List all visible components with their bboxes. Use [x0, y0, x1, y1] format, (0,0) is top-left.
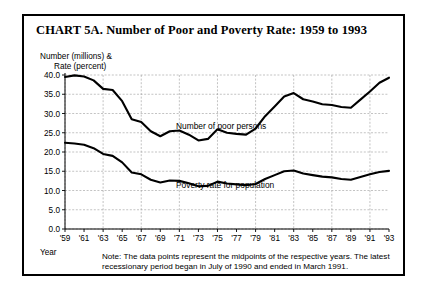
x-tick-label: '83	[288, 234, 299, 243]
x-tick-label: '65	[117, 234, 128, 243]
axis-lines	[65, 73, 389, 229]
x-tick-label: '79	[250, 234, 261, 243]
x-tick-label: '75	[212, 234, 223, 243]
y-tick-label: 10.0	[44, 187, 60, 196]
x-tick-label: '69	[155, 234, 166, 243]
x-tick-label: '87	[326, 234, 337, 243]
x-tick-label: '67	[136, 234, 147, 243]
y-tick-label: 15.0	[44, 167, 60, 176]
chart-svg: 0.05.010.015.020.025.030.035.040.0 '59'6…	[24, 16, 407, 278]
gridlines	[65, 75, 389, 229]
plot-area: 0.05.010.015.020.025.030.035.040.0 '59'6…	[24, 16, 407, 278]
x-tick-label: '63	[98, 234, 109, 243]
chart-figure: CHART 5A. Number of Poor and Poverty Rat…	[22, 14, 405, 276]
x-tick-label: '93	[384, 234, 395, 243]
x-tick-label: '61	[79, 234, 90, 243]
chart-note: Note: The data points represent the midp…	[102, 252, 394, 272]
y-tick-label: 35.0	[44, 90, 60, 99]
x-tick-label: '89	[346, 234, 357, 243]
y-tick-label: 5.0	[49, 206, 61, 215]
x-tick-label: '73	[193, 234, 204, 243]
series-annotation: Poverty rate for population	[176, 180, 275, 190]
x-tick-label: '91	[365, 234, 376, 243]
year-axis-word: Year	[40, 248, 57, 257]
x-tick-label: '71	[174, 234, 185, 243]
y-tick-label: 30.0	[44, 110, 60, 119]
series-annotation: Number of poor persons	[176, 121, 266, 131]
x-tick-label: '85	[307, 234, 318, 243]
y-tick-label: 40.0	[44, 71, 60, 80]
y-tick-labels: 0.05.010.015.020.025.030.035.040.0	[44, 71, 65, 234]
x-tick-label: '81	[269, 234, 280, 243]
y-tick-label: 25.0	[44, 129, 60, 138]
y-tick-label: 0.0	[49, 225, 61, 234]
x-tick-labels: '59'61'63'65'67'69'71'73'75'77'79'81'83'…	[60, 229, 395, 243]
x-tick-label: '77	[231, 234, 242, 243]
y-tick-label: 20.0	[44, 148, 60, 157]
x-tick-label: '59	[60, 234, 71, 243]
